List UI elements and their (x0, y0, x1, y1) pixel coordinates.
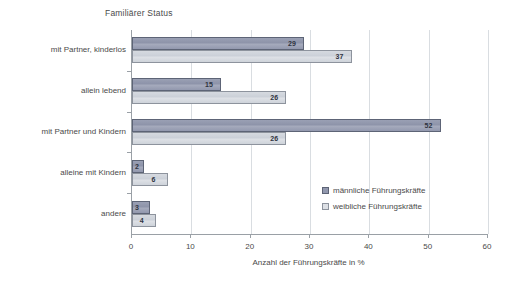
x-axis-title: Anzahl der Führungskräfte in % (0, 258, 517, 267)
x-tick (190, 234, 191, 238)
bar-value-label: 29 (288, 37, 296, 50)
y-tick (127, 112, 131, 113)
bar-female (132, 214, 156, 227)
legend-label-male: männliche Führungskräfte (333, 186, 426, 195)
chart-title: Familiärer Status (105, 8, 173, 18)
x-tick (131, 234, 132, 238)
category-label: allein lebend (81, 86, 126, 95)
category-label: andere (101, 209, 126, 218)
y-tick (127, 193, 131, 194)
bar-value-label: 15 (205, 78, 213, 91)
x-tick-label: 10 (186, 242, 195, 251)
x-axis-title-text: Anzahl der Führungskräfte in % (152, 258, 364, 267)
y-tick (127, 152, 131, 153)
plot-area: 2937152652262634 (131, 30, 488, 234)
bar-value-label: 3 (135, 201, 139, 214)
legend-item-female[interactable]: weibliche Führungskräfte (322, 200, 426, 213)
gridline (488, 30, 489, 234)
bar-female (132, 132, 286, 145)
legend-swatch-female-icon (322, 203, 329, 210)
x-tick-label: 20 (245, 242, 254, 251)
bar-value-label: 37 (336, 50, 344, 63)
bar-male (132, 119, 441, 132)
x-tick (250, 234, 251, 238)
x-tick-label: 40 (364, 242, 373, 251)
bar-female (132, 50, 352, 63)
category-label: mit Partner, kinderlos (51, 45, 126, 54)
bar-value-label: 26 (270, 132, 278, 145)
bar-value-label: 2 (135, 160, 139, 173)
chart-legend: männliche Führungskräfte weibliche Führu… (322, 184, 426, 216)
x-tick (428, 234, 429, 238)
category-label: mit Partner und Kindern (42, 127, 127, 136)
gridline (429, 30, 430, 234)
legend-swatch-male-icon (322, 187, 329, 194)
bar-female (132, 173, 168, 186)
bar-chart: Familiärer Status mit Partner, kinderlos… (0, 0, 517, 286)
bar-female (132, 91, 286, 104)
bar-value-label: 26 (270, 91, 278, 104)
y-tick (127, 71, 131, 72)
x-tick (487, 234, 488, 238)
legend-item-male[interactable]: männliche Führungskräfte (322, 184, 426, 197)
category-axis-labels: mit Partner, kinderlosallein lebendmit P… (0, 30, 126, 234)
bar-value-label: 52 (425, 119, 433, 132)
x-tick-label: 30 (305, 242, 314, 251)
legend-label-female: weibliche Führungskräfte (333, 202, 422, 211)
x-tick (309, 234, 310, 238)
bar-value-label: 6 (152, 173, 156, 186)
x-tick-label: 0 (129, 242, 133, 251)
bar-male (132, 37, 304, 50)
bar-value-label: 4 (140, 214, 144, 227)
x-tick-label: 60 (483, 242, 492, 251)
category-label: alleine mit Kindern (60, 168, 126, 177)
x-tick (368, 234, 369, 238)
x-tick-label: 50 (423, 242, 432, 251)
